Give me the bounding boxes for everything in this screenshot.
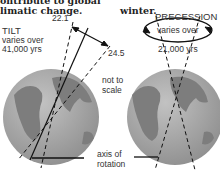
precession-period-line2: 21,000 yrs: [158, 45, 198, 55]
not-to-scale-line2: scale: [102, 86, 122, 96]
precession-title: PRECESSION: [155, 12, 217, 22]
earth-orbital-variations-diagram: ontribute to global limatic change. wint…: [0, 0, 220, 177]
tilt-period-line2: 41,000 yrs: [2, 45, 42, 55]
precession-period-line1: varies over: [157, 26, 199, 36]
left-globe: [3, 69, 99, 165]
right-globe: [127, 69, 220, 165]
axis-label-line2: rotation: [97, 160, 125, 170]
tilt-angle-min: 22.1: [52, 14, 69, 24]
tilt-angle-max: 24.5: [108, 49, 125, 59]
